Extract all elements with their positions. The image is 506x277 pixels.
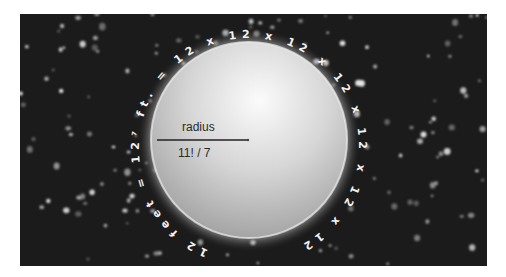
- star: [481, 178, 484, 181]
- star: [145, 254, 149, 257]
- star: [425, 219, 429, 223]
- star: [226, 253, 229, 256]
- star: [298, 19, 303, 23]
- star: [340, 41, 346, 46]
- star: [414, 235, 420, 241]
- star: [124, 169, 130, 176]
- star: [54, 162, 60, 169]
- star: [445, 41, 451, 47]
- star: [430, 182, 436, 188]
- star: [258, 21, 262, 24]
- star: [59, 47, 63, 52]
- star: [126, 222, 129, 224]
- star: [75, 211, 81, 216]
- radius-label: radius: [182, 120, 215, 134]
- star: [469, 14, 473, 18]
- star: [89, 189, 94, 195]
- radius-value-label: 11! / 7: [178, 146, 211, 160]
- star: [46, 199, 50, 203]
- star: [63, 46, 65, 49]
- star: [409, 126, 413, 130]
- star: [195, 35, 200, 39]
- star: [427, 55, 429, 58]
- star: [65, 126, 71, 130]
- star: [154, 251, 160, 255]
- star: [329, 245, 332, 247]
- star: [39, 205, 44, 209]
- star: [417, 139, 423, 144]
- star: [257, 262, 259, 264]
- star: [429, 121, 432, 123]
- star: [25, 45, 29, 49]
- star: [277, 18, 281, 21]
- star: [458, 35, 462, 38]
- star: [130, 194, 135, 199]
- star: [478, 79, 481, 82]
- star: [469, 244, 475, 251]
- star: [373, 177, 376, 179]
- star: [436, 156, 439, 158]
- star: [433, 99, 436, 102]
- star: [460, 215, 464, 218]
- star: [112, 146, 116, 149]
- star: [114, 169, 117, 172]
- star: [270, 26, 274, 29]
- star: [431, 116, 436, 121]
- star: [414, 201, 419, 207]
- star: [100, 182, 104, 186]
- star: [327, 32, 329, 34]
- star: [87, 96, 90, 99]
- star: [355, 80, 362, 86]
- star: [80, 41, 86, 48]
- sphere-diagram: 12 feet = 12⁷ ft. = 12 x 12 x 12 x 12 x …: [20, 14, 487, 266]
- star: [480, 126, 486, 132]
- star: [324, 15, 326, 17]
- star: [476, 14, 479, 17]
- star: [128, 182, 131, 185]
- star: [431, 131, 434, 134]
- star: [421, 131, 427, 137]
- star: [373, 65, 377, 69]
- star: [31, 137, 35, 141]
- star: [122, 208, 127, 212]
- star: [94, 14, 99, 16]
- star: [80, 194, 85, 200]
- star: [87, 132, 92, 137]
- star: [335, 247, 338, 250]
- center-point: [247, 139, 249, 141]
- star: [20, 92, 23, 96]
- star: [21, 102, 26, 107]
- star: [92, 45, 98, 51]
- star: [150, 14, 154, 16]
- star: [448, 55, 451, 58]
- star: [44, 77, 49, 81]
- star: [386, 262, 389, 265]
- star: [83, 202, 87, 205]
- star: [75, 16, 81, 20]
- star: [67, 115, 70, 118]
- star: [391, 203, 397, 209]
- star: [136, 209, 140, 213]
- star: [87, 258, 90, 261]
- star: [475, 170, 478, 173]
- star: [176, 38, 181, 42]
- star: [93, 36, 98, 40]
- star: [384, 119, 389, 125]
- star: [407, 200, 412, 205]
- star: [63, 207, 69, 213]
- star: [155, 52, 158, 55]
- star: [349, 16, 352, 19]
- star: [125, 69, 129, 74]
- star: [319, 249, 322, 252]
- star: [96, 50, 99, 53]
- star: [69, 133, 73, 136]
- star: [127, 198, 131, 202]
- star: [399, 154, 403, 158]
- star: [460, 87, 466, 93]
- space-background-panel: 12 feet = 12⁷ ft. = 12 x 12 x 12 x 12 x …: [20, 14, 487, 266]
- star: [444, 148, 451, 155]
- star: [439, 151, 444, 156]
- star: [155, 44, 158, 46]
- star: [57, 30, 60, 33]
- star: [249, 19, 254, 24]
